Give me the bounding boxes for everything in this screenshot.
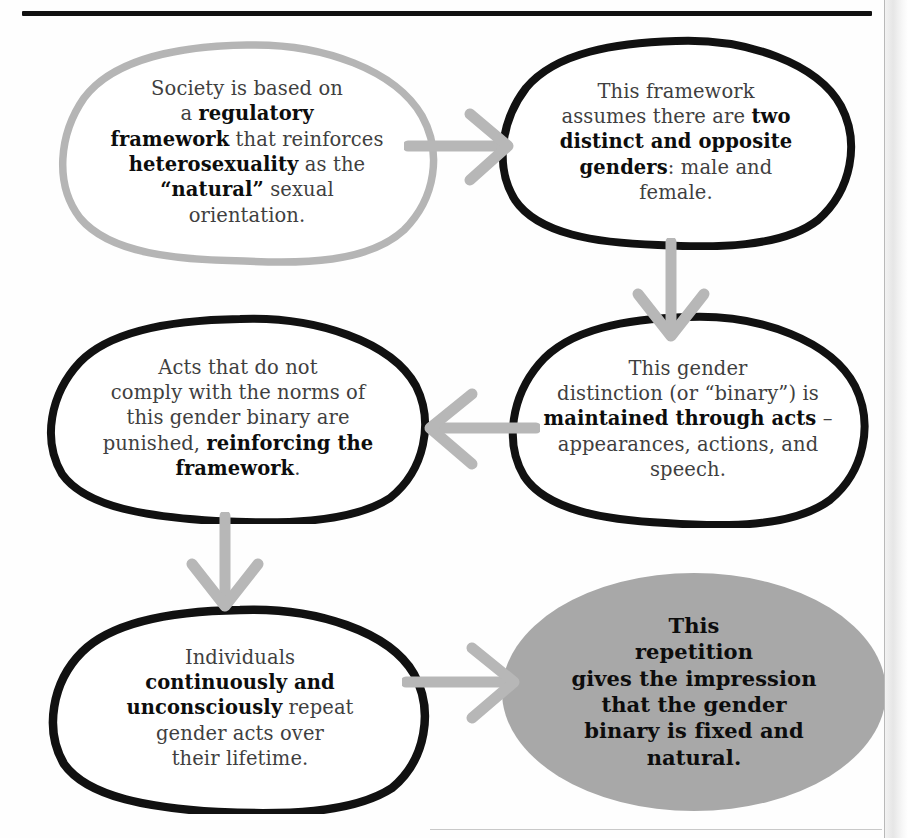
text-line: genders: male and bbox=[560, 155, 793, 180]
text-line: female. bbox=[560, 180, 793, 205]
plain-text: Individuals bbox=[185, 646, 295, 669]
node-4-text: Acts that do notcomply with the norms of… bbox=[95, 355, 382, 482]
arrow-right-node5-node6 bbox=[402, 636, 540, 728]
arrow-down-node2-node3 bbox=[616, 238, 726, 346]
node-1-text: Society is based ona regulatoryframework… bbox=[102, 76, 391, 228]
plain-text: as the bbox=[299, 153, 366, 176]
emphasis-text: “natural” bbox=[160, 178, 264, 201]
text-line: Society is based on bbox=[110, 76, 383, 101]
plain-text: speech. bbox=[650, 458, 726, 481]
page-edge-shadow bbox=[885, 0, 908, 838]
text-line: heterosexuality as the bbox=[110, 152, 383, 177]
node-society-framework[interactable]: Society is based ona regulatoryframework… bbox=[56, 38, 438, 266]
node-two-genders[interactable]: This frameworkassumes there are twodisti… bbox=[496, 34, 856, 250]
plain-text: gender acts over bbox=[156, 722, 324, 745]
text-line: framework. bbox=[103, 456, 374, 481]
text-line: repetition bbox=[571, 639, 816, 665]
emphasis-text: repetition bbox=[635, 639, 753, 664]
arrow-right-node1-node2 bbox=[404, 104, 534, 190]
text-line: continuously and bbox=[126, 670, 353, 695]
text-line: gives the impression bbox=[571, 666, 816, 692]
plain-text: comply with the norms of bbox=[111, 381, 365, 404]
emphasis-text: natural. bbox=[647, 745, 742, 770]
text-line: “natural” sexual bbox=[110, 177, 383, 202]
node-individuals-repeat[interactable]: Individualscontinuously andunconsciously… bbox=[44, 602, 436, 814]
text-line: Acts that do not bbox=[103, 355, 374, 380]
plain-text: Society is based on bbox=[151, 77, 343, 100]
emphasis-text: that the gender bbox=[601, 692, 786, 717]
plain-text: This framework bbox=[597, 80, 754, 103]
diagram-canvas: Society is based ona regulatoryframework… bbox=[0, 0, 908, 838]
plain-text: distinction (or “binary”) is bbox=[557, 382, 819, 405]
node-binary-fixed-natural[interactable]: Thisrepetitiongives the impressionthat t… bbox=[500, 572, 888, 812]
node-3-text: This genderdistinction (or “binary”) ism… bbox=[535, 356, 840, 483]
emphasis-text: binary is fixed and bbox=[584, 718, 804, 743]
text-line: punished, reinforcing the bbox=[103, 431, 374, 456]
emphasis-text: framework bbox=[175, 457, 294, 480]
plain-text: This gender bbox=[628, 357, 747, 380]
emphasis-text: This bbox=[668, 613, 719, 638]
text-line: appearances, actions, and bbox=[543, 432, 832, 457]
top-horizontal-rule bbox=[22, 11, 872, 16]
text-line: binary is fixed and bbox=[571, 718, 816, 744]
text-line: distinction (or “binary”) is bbox=[543, 381, 832, 406]
plain-text: punished, bbox=[103, 432, 207, 455]
text-line: maintained through acts – bbox=[543, 406, 832, 431]
node-6-text: Thisrepetitiongives the impressionthat t… bbox=[563, 613, 824, 772]
plain-text: sexual bbox=[264, 178, 334, 201]
plain-text: – bbox=[816, 407, 832, 430]
plain-text: their lifetime. bbox=[172, 747, 309, 770]
text-line: natural. bbox=[571, 745, 816, 771]
emphasis-text: unconsciously bbox=[126, 696, 282, 719]
node-acts-punished[interactable]: Acts that do notcomply with the norms of… bbox=[40, 312, 436, 524]
text-line: gender acts over bbox=[126, 721, 353, 746]
emphasis-text: genders bbox=[580, 156, 668, 179]
text-line: speech. bbox=[543, 457, 832, 482]
plain-text: orientation. bbox=[189, 204, 306, 227]
text-line: this gender binary are bbox=[103, 405, 374, 430]
node-5-text: Individualscontinuously andunconsciously… bbox=[118, 645, 361, 772]
text-line: orientation. bbox=[110, 203, 383, 228]
text-line: assumes there are two bbox=[560, 104, 793, 129]
plain-text: appearances, actions, and bbox=[558, 433, 819, 456]
plain-text: Acts that do not bbox=[158, 356, 317, 379]
emphasis-text: distinct and opposite bbox=[560, 130, 793, 153]
text-line: distinct and opposite bbox=[560, 129, 793, 154]
plain-text: repeat bbox=[282, 696, 353, 719]
arrow-left-node3-node4 bbox=[402, 382, 540, 474]
plain-text: female. bbox=[639, 181, 713, 204]
emphasis-text: continuously and bbox=[145, 671, 335, 694]
text-line: unconsciously repeat bbox=[126, 695, 353, 720]
emphasis-text: reinforcing the bbox=[206, 432, 373, 455]
arrow-down-node4-node5 bbox=[166, 512, 284, 616]
text-line: This bbox=[571, 613, 816, 639]
plain-text: that reinforces bbox=[229, 128, 383, 151]
text-line: their lifetime. bbox=[126, 746, 353, 771]
plain-text: : male and bbox=[668, 156, 773, 179]
emphasis-text: regulatory bbox=[198, 102, 313, 125]
plain-text: assumes there are bbox=[561, 105, 751, 128]
emphasis-text: heterosexuality bbox=[129, 153, 299, 176]
text-line: comply with the norms of bbox=[103, 380, 374, 405]
plain-text: this gender binary are bbox=[126, 406, 349, 429]
emphasis-text: maintained through acts bbox=[543, 407, 816, 430]
plain-text: . bbox=[294, 457, 300, 480]
emphasis-text: gives the impression bbox=[571, 666, 816, 691]
text-line: framework that reinforces bbox=[110, 127, 383, 152]
emphasis-text: two bbox=[751, 105, 790, 128]
text-line: that the gender bbox=[571, 692, 816, 718]
node-2-text: This frameworkassumes there are twodisti… bbox=[552, 79, 801, 206]
text-line: a regulatory bbox=[110, 101, 383, 126]
text-line: This gender bbox=[543, 356, 832, 381]
emphasis-text: framework bbox=[110, 128, 229, 151]
text-line: This framework bbox=[560, 79, 793, 104]
page-bottom-rule bbox=[430, 829, 882, 830]
text-line: Individuals bbox=[126, 645, 353, 670]
plain-text: a bbox=[180, 102, 198, 125]
